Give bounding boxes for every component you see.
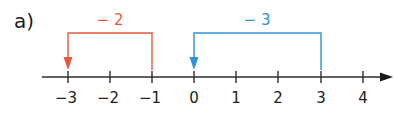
tick-label: 3 <box>316 89 326 107</box>
number-line-diagram: a) −3 −2 −1 0 1 2 3 4 − 2 − 3 <box>0 0 395 130</box>
arrow-down-icon <box>64 57 73 70</box>
jump-minus-2: − 2 <box>64 11 153 70</box>
axis-arrow-icon <box>380 73 393 82</box>
tick-label: 4 <box>358 89 368 107</box>
tick-label: −3 <box>55 89 77 107</box>
jump-minus-3: − 3 <box>190 11 322 70</box>
jump-label: − 3 <box>244 11 271 29</box>
tick-label: −2 <box>97 89 119 107</box>
tick-label: 2 <box>273 89 283 107</box>
jump-label: − 2 <box>97 11 124 29</box>
arrow-down-icon <box>190 57 199 70</box>
tick-label: −1 <box>139 89 161 107</box>
tick-label: 0 <box>189 89 199 107</box>
part-label: a) <box>14 9 34 33</box>
tick-label: 1 <box>231 89 241 107</box>
